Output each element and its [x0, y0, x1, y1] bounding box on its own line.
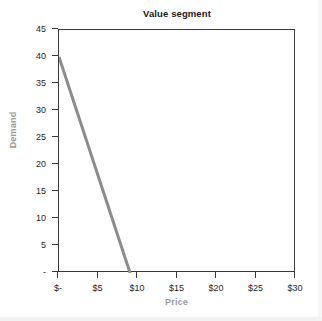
x-tick-label: $10	[117, 283, 157, 293]
y-tick-mark	[52, 136, 58, 137]
x-tick-label: $5	[78, 283, 118, 293]
x-tick-mark	[97, 272, 98, 278]
y-tick-mark	[52, 28, 58, 29]
x-tick-label: $20	[196, 283, 236, 293]
y-tick-label: 5	[12, 240, 46, 250]
x-axis: $-$5$10$15$20$25$30	[0, 272, 322, 298]
y-tick-label: 10	[12, 213, 46, 223]
plot-area	[58, 29, 295, 272]
x-tick-label: $30	[275, 283, 315, 293]
series-line-group	[59, 57, 130, 273]
demand-curve-svg	[59, 30, 296, 273]
x-tick-mark	[176, 272, 177, 278]
y-tick-mark	[52, 190, 58, 191]
y-tick-mark	[52, 55, 58, 56]
y-tick-mark	[52, 163, 58, 164]
y-tick-mark	[52, 244, 58, 245]
y-tick-label: 15	[12, 186, 46, 196]
x-tick-mark	[215, 272, 216, 278]
y-axis-title: Demand	[8, 95, 18, 165]
x-tick-mark	[255, 272, 256, 278]
chart-container: Value segment -51015202530354045 $-$5$10…	[0, 0, 322, 321]
series-line	[59, 57, 130, 273]
y-tick-label: 45	[12, 24, 46, 34]
y-tick-mark	[52, 217, 58, 218]
x-tick-mark	[294, 272, 295, 278]
x-tick-mark	[57, 272, 58, 278]
x-tick-mark	[136, 272, 137, 278]
y-tick-mark	[52, 109, 58, 110]
x-tick-label: $15	[157, 283, 197, 293]
x-tick-label: $-	[38, 283, 78, 293]
y-tick-mark	[52, 82, 58, 83]
chart-title: Value segment	[58, 8, 296, 19]
x-axis-title: Price	[58, 297, 295, 307]
y-tick-label: 35	[12, 78, 46, 88]
x-tick-label: $25	[236, 283, 276, 293]
y-tick-label: 40	[12, 51, 46, 61]
